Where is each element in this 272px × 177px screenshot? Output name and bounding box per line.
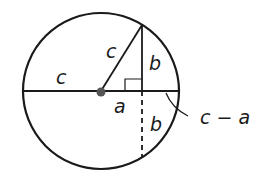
label-hypotenuse-c: c: [106, 40, 117, 62]
center-dot: [97, 88, 106, 97]
right-angle-marker: [125, 79, 142, 91]
label-radius-c: c: [56, 66, 67, 88]
label-chord-b-lower: b: [150, 113, 162, 135]
label-leg-b-top: b: [149, 52, 161, 74]
label-leg-a: a: [114, 95, 126, 117]
label-remainder-c-minus-a: c − a: [200, 106, 250, 128]
circle-geometry-diagram: c c b a b c − a: [0, 0, 272, 177]
